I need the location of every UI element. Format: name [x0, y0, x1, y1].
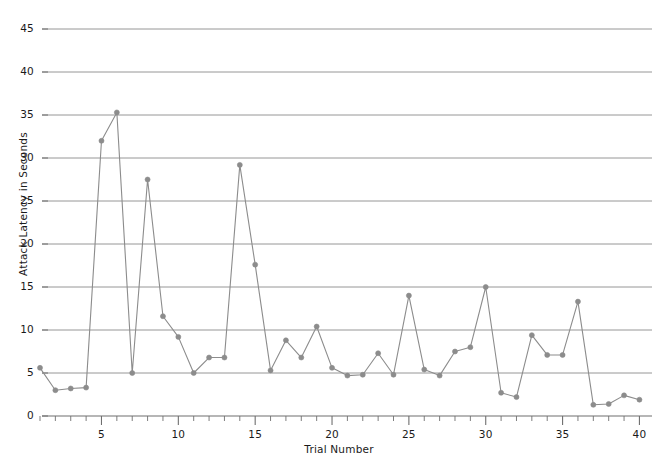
data-point-marker	[483, 285, 488, 290]
data-point-marker	[622, 393, 627, 398]
data-point-marker	[406, 293, 411, 298]
data-point-marker	[575, 299, 580, 304]
x-axis-ticks	[40, 416, 639, 425]
data-point-marker	[360, 372, 365, 377]
data-point-markers	[38, 110, 642, 407]
data-point-marker	[207, 355, 212, 360]
data-point-marker	[84, 385, 89, 390]
data-series-line	[40, 112, 639, 404]
data-point-marker	[468, 345, 473, 350]
data-point-marker	[376, 351, 381, 356]
data-point-marker	[191, 371, 196, 376]
data-point-marker	[99, 138, 104, 143]
data-point-marker	[38, 365, 43, 370]
data-point-marker	[268, 368, 273, 373]
data-point-marker	[299, 355, 304, 360]
attack-latency-line-chart: 05101520253035404550 510152025303540 Att…	[0, 0, 658, 466]
data-point-marker	[591, 402, 596, 407]
x-tick-label-20: 20	[317, 428, 347, 440]
data-point-marker	[68, 386, 73, 391]
gridlines	[42, 0, 652, 373]
data-point-marker	[345, 373, 350, 378]
y-tick-label-10: 10	[8, 323, 34, 335]
data-point-marker	[53, 388, 58, 393]
data-point-marker	[606, 401, 611, 406]
plot-area	[0, 0, 658, 466]
data-point-marker	[314, 324, 319, 329]
data-point-marker	[422, 367, 427, 372]
y-tick-label-0: 0	[8, 409, 34, 421]
data-point-marker	[499, 390, 504, 395]
data-point-marker	[222, 355, 227, 360]
data-point-marker	[237, 162, 242, 167]
data-point-marker	[160, 314, 165, 319]
x-tick-label-25: 25	[394, 428, 424, 440]
data-point-marker	[514, 395, 519, 400]
data-point-marker	[529, 333, 534, 338]
data-point-marker	[253, 262, 258, 267]
data-point-marker	[545, 352, 550, 357]
y-axis-title: Attack Latency in Seconds	[17, 119, 29, 289]
data-point-marker	[330, 365, 335, 370]
data-point-marker	[637, 397, 642, 402]
x-tick-label-15: 15	[240, 428, 270, 440]
x-tick-label-30: 30	[471, 428, 501, 440]
y-tick-label-45: 45	[8, 22, 34, 34]
x-axis-title: Trial Number	[279, 443, 399, 455]
data-point-marker	[560, 352, 565, 357]
y-tick-label-40: 40	[8, 65, 34, 77]
x-tick-label-35: 35	[548, 428, 578, 440]
x-tick-label-10: 10	[163, 428, 193, 440]
data-point-marker	[114, 110, 119, 115]
data-point-marker	[130, 371, 135, 376]
x-tick-label-5: 5	[86, 428, 116, 440]
series-line-attack-latency	[40, 112, 639, 404]
x-tick-label-40: 40	[624, 428, 654, 440]
data-point-marker	[437, 373, 442, 378]
data-point-marker	[176, 334, 181, 339]
data-point-marker	[283, 338, 288, 343]
y-tick-label-5: 5	[8, 366, 34, 378]
data-point-marker	[452, 349, 457, 354]
y-axis-ticks	[42, 0, 48, 416]
data-point-marker	[145, 177, 150, 182]
data-point-marker	[391, 372, 396, 377]
